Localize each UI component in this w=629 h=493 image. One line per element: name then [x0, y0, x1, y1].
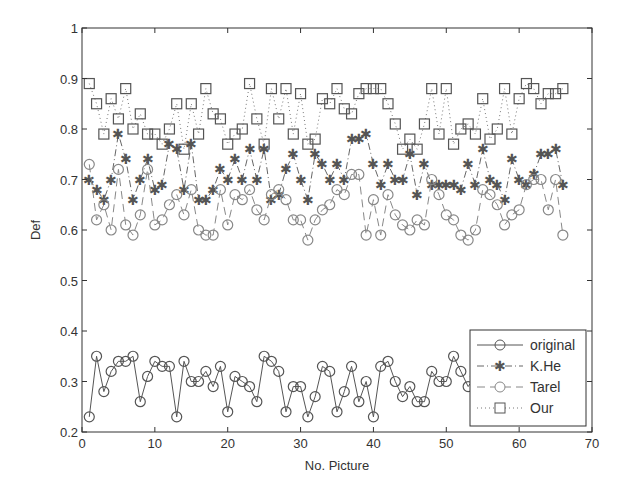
legend-label: K.He: [530, 358, 561, 374]
y-tick-label: 0.3: [60, 375, 78, 390]
svg-text:✱: ✱: [455, 182, 467, 198]
svg-text:✱: ✱: [331, 156, 343, 172]
svg-text:✱: ✱: [127, 192, 139, 208]
y-tick-label: 0.8: [60, 122, 78, 137]
svg-text:✱: ✱: [418, 156, 430, 172]
svg-text:✱: ✱: [280, 161, 292, 177]
x-tick-label: 50: [439, 436, 453, 451]
svg-text:✱: ✱: [178, 182, 190, 198]
x-tick-label: 20: [220, 436, 234, 451]
svg-text:✱: ✱: [295, 172, 307, 188]
series-our: [84, 79, 568, 155]
svg-text:✱: ✱: [462, 156, 474, 172]
y-tick-label: 0.5: [60, 274, 78, 289]
svg-text:✱: ✱: [382, 156, 394, 172]
svg-text:✱: ✱: [506, 151, 518, 167]
series-k-he: ✱✱✱✱✱✱✱✱✱✱✱✱✱✱✱✱✱✱✱✱✱✱✱✱✱✱✱✱✱✱✱✱✱✱✱✱✱✱✱✱…: [83, 126, 569, 208]
y-axis-label: Def: [28, 219, 43, 240]
svg-text:✱: ✱: [287, 146, 299, 162]
circle-marker-icon: [495, 382, 505, 392]
x-tick-label: 10: [148, 436, 162, 451]
svg-text:✱: ✱: [360, 126, 372, 142]
svg-text:✱: ✱: [112, 126, 124, 142]
svg-text:✱: ✱: [207, 182, 219, 198]
svg-text:✱: ✱: [316, 156, 328, 172]
svg-text:✱: ✱: [550, 141, 562, 157]
svg-text:✱: ✱: [156, 177, 168, 193]
svg-text:✱: ✱: [367, 156, 379, 172]
svg-text:✱: ✱: [499, 192, 511, 208]
svg-text:✱: ✱: [244, 141, 256, 157]
y-tick-label: 0.2: [60, 425, 78, 440]
svg-text:✱: ✱: [411, 187, 423, 203]
star-marker-icon: ✱: [494, 358, 506, 374]
y-tick-label: 0.6: [60, 223, 78, 238]
legend-label: original: [530, 337, 575, 353]
x-tick-label: 70: [585, 436, 599, 451]
svg-text:✱: ✱: [397, 172, 409, 188]
y-tick-label: 1: [71, 21, 78, 36]
svg-text:✱: ✱: [557, 177, 569, 193]
svg-text:✱: ✱: [302, 192, 314, 208]
svg-text:✱: ✱: [229, 151, 241, 167]
y-tick-label: 0.9: [60, 72, 78, 87]
legend-label: Tarel: [530, 379, 560, 395]
legend-label: Our: [530, 400, 554, 416]
x-axis-label: No. Picture: [305, 458, 369, 473]
x-tick-label: 30: [293, 436, 307, 451]
svg-text:✱: ✱: [171, 141, 183, 157]
legend: original ✱ K.He Tarel Our: [470, 330, 586, 426]
x-tick-label: 0: [78, 436, 85, 451]
y-tick-label: 0.7: [60, 173, 78, 188]
svg-text:✱: ✱: [469, 177, 481, 193]
square-marker-icon: [495, 403, 505, 413]
y-tick-label: 0.4: [60, 324, 78, 339]
line-chart: ✱✱✱✱✱✱✱✱✱✱✱✱✱✱✱✱✱✱✱✱✱✱✱✱✱✱✱✱✱✱✱✱✱✱✱✱✱✱✱✱…: [0, 0, 629, 493]
x-tick-label: 60: [512, 436, 526, 451]
x-tick-label: 40: [366, 436, 380, 451]
